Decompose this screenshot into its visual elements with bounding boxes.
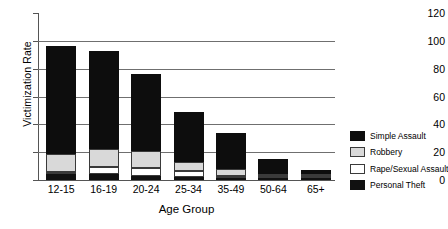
bar-segment-robbery <box>46 154 76 171</box>
bar-50-64 <box>258 159 288 180</box>
bar-segment-simple <box>131 74 161 151</box>
legend-item: Robbery <box>350 145 448 160</box>
bar-12-15 <box>46 46 76 180</box>
y-tick-mark <box>33 180 38 181</box>
legend-item: Rape/Sexual Assault <box>350 161 448 176</box>
bar-20-24 <box>131 74 161 180</box>
bar-segment-simple <box>216 133 246 169</box>
bar-segment-theft <box>216 178 246 180</box>
bar-segment-simple <box>89 51 119 150</box>
legend-label: Simple Assault <box>370 131 426 141</box>
bar-segment-theft <box>174 177 204 180</box>
bar-segment-robbery <box>131 151 161 168</box>
bar-segment-theft <box>131 176 161 180</box>
y-tick-label: 60 <box>415 92 445 102</box>
y-axis-title: Victimization Rate <box>21 9 33 159</box>
bar-segment-theft <box>258 178 288 180</box>
bar-segment-robbery <box>89 149 119 166</box>
bar-segment-rape <box>131 168 161 176</box>
x-tick-label: 65+ <box>288 183 344 195</box>
y-tick-label: 80 <box>415 64 445 74</box>
x-axis-title: Age Group <box>38 203 335 215</box>
bar-segment-robbery <box>174 162 204 171</box>
bar-segment-simple <box>174 112 204 162</box>
bar-segment-simple <box>46 46 76 154</box>
bar-segment-theft <box>301 178 331 180</box>
bar-16-19 <box>89 51 119 180</box>
legend-swatch-simple <box>350 131 365 141</box>
legend-swatch-rape <box>350 164 365 174</box>
bar-segment-theft <box>89 174 119 180</box>
legend-item: Simple Assault <box>350 128 448 143</box>
x-axis-line <box>38 180 335 181</box>
legend-swatch-robbery <box>350 147 365 157</box>
bar-segment-simple <box>258 159 288 174</box>
bar-25-34 <box>174 112 204 180</box>
bar-segment-theft <box>46 174 76 180</box>
legend-swatch-theft <box>350 180 365 190</box>
legend-label: Personal Theft <box>370 180 425 190</box>
legend-label: Robbery <box>370 147 402 157</box>
bar-segment-rape <box>89 167 119 174</box>
y-tick-label: 120 <box>415 8 445 18</box>
bar-65+ <box>301 170 331 180</box>
y-tick-label: 100 <box>415 36 445 46</box>
legend-item: Personal Theft <box>350 178 448 193</box>
bar-segment-robbery <box>216 169 246 176</box>
bar-35-49 <box>216 133 246 180</box>
plot-area <box>38 13 335 180</box>
legend-label: Rape/Sexual Assault <box>370 164 448 174</box>
chart-legend: Simple AssaultRobberyRape/Sexual Assault… <box>350 128 448 194</box>
